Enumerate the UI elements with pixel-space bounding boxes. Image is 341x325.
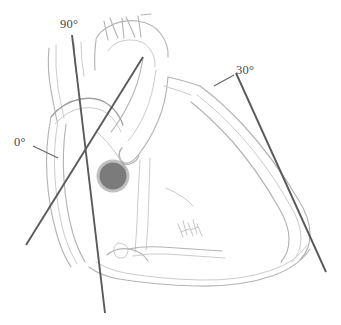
chordae-hatching [178, 220, 202, 237]
left-vessel-strand-b [56, 45, 64, 118]
left-vessel-strand-d [81, 42, 84, 76]
aortic-root-inner [128, 70, 156, 141]
rv-free-wall-outer [200, 86, 310, 260]
rv-free-wall-inner [191, 102, 289, 262]
plane-origin-marker-group [97, 160, 130, 193]
aorta-to-rv-connector [168, 77, 200, 86]
aortic-arch-outer [96, 21, 168, 57]
lv-free-wall-mid [54, 120, 77, 264]
leader-line-30-degrees [214, 75, 234, 86]
ventricular-base-floor [128, 247, 222, 251]
ascending-aorta-left-wall [111, 58, 143, 132]
ventricular-base-floor-inner [133, 254, 225, 258]
axis-line-30-degrees [236, 73, 326, 272]
ascending-aorta-right-wall [119, 77, 168, 163]
imaging-plane-axes [26, 35, 326, 313]
interventricular-septum [135, 160, 140, 252]
lv-inferior-wall-outer [89, 249, 310, 286]
left-atrial-roof [51, 98, 123, 125]
plane-origin-dot [100, 163, 127, 190]
angle-label-30-degrees: 30° [236, 64, 254, 77]
septum-right-edge [146, 158, 150, 250]
angle-label-0-degrees: 0° [14, 136, 26, 149]
aorta-to-rv-connector-inner [164, 86, 191, 95]
great-vessel-branch-marks [104, 14, 151, 40]
anatomical-angle-diagram: 0° 30° 90° [0, 0, 341, 325]
diagram-canvas [0, 0, 341, 325]
coronary-sinus-oval [114, 243, 128, 258]
angle-label-90-degrees: 90° [60, 18, 78, 31]
papillary-muscle-streak [166, 188, 193, 206]
aortic-arch-inner [108, 40, 155, 67]
left-vessel-strand-e [95, 40, 96, 70]
